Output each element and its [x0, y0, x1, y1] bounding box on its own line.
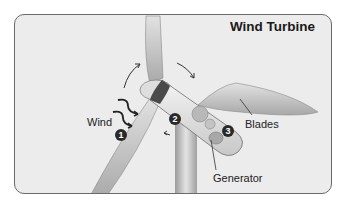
step-badge-3: 3 — [222, 125, 234, 137]
generator-label: Generator — [213, 172, 263, 184]
rotation-arrow-left — [124, 64, 140, 88]
diagram-title: Wind Turbine — [230, 19, 315, 34]
wind-label: Wind — [87, 116, 112, 128]
rotation-arrow-right — [177, 63, 194, 78]
blade-right — [198, 83, 318, 115]
blade-top — [146, 16, 164, 84]
step-badge-1: 1 — [115, 129, 127, 141]
step-badge-2: 2 — [169, 113, 181, 125]
blades-label: Blades — [245, 118, 279, 130]
blade-lower — [88, 97, 160, 200]
